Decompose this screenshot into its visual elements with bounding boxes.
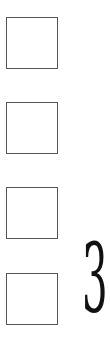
checkbox-2[interactable] bbox=[6, 102, 58, 154]
checkbox-4[interactable] bbox=[6, 273, 58, 325]
checkbox-1[interactable] bbox=[6, 17, 58, 69]
checkbox-3[interactable] bbox=[6, 187, 58, 239]
number-label: 3 bbox=[82, 224, 94, 334]
